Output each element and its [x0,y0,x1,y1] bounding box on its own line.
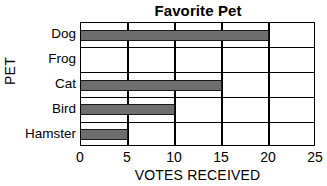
x-tick-label-25: 25 [300,148,327,166]
x-tick-label-0: 0 [65,148,95,166]
bar-hamster [81,129,128,140]
y-axis-tick-labels: DogFrogCatBirdHamster [0,22,76,146]
chart-title: Favorite Pet [80,1,316,20]
x-tick-label-15: 15 [206,148,236,166]
x-tick-label-5: 5 [112,148,142,166]
y-tick-label-bird: Bird [2,101,76,117]
y-tick-label-hamster: Hamster [2,126,76,142]
x-tick-label-10: 10 [159,148,189,166]
y-gridline [81,122,314,123]
plot-area [80,22,315,146]
y-tick-label-cat: Cat [2,76,76,92]
y-tick-label-frog: Frog [2,51,76,67]
bar-bird [81,104,175,115]
bar-cat [81,80,222,91]
x-axis-title: VOTES RECEIVED [80,166,315,184]
x-axis-tick-labels: 0510152025 [80,148,315,166]
y-gridline [81,97,314,98]
y-tick-label-dog: Dog [2,26,76,42]
y-gridline [81,47,314,48]
x-gridline [268,23,270,145]
bar-chart: Favorite Pet PET DogFrogCatBirdHamster 0… [0,0,327,186]
bar-dog [81,30,269,41]
x-tick-label-20: 20 [253,148,283,166]
y-gridline [81,72,314,73]
